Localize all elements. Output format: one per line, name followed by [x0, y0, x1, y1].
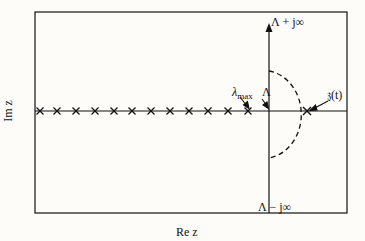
lambda-max-label: λmax — [232, 86, 253, 101]
top-pole-label: Λ + j∞ — [271, 16, 304, 28]
y-axis-label: Im z — [2, 100, 14, 122]
lambda-label: Λ — [262, 86, 271, 98]
zt-label: 𝔷(t) — [327, 89, 342, 101]
dashed-semicircle — [269, 71, 301, 158]
x-axis-label: Re z — [176, 226, 198, 238]
pointer-arrows — [240, 97, 328, 111]
contour-diagram — [0, 0, 365, 241]
bottom-pole-label: Λ − j∞ — [258, 201, 291, 213]
